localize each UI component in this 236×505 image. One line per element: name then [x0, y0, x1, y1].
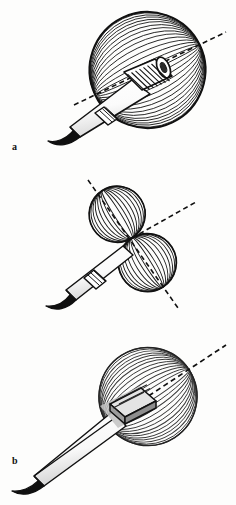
- probe-a: [48, 55, 173, 145]
- panel-b-diagram: [0, 160, 236, 320]
- panel-a-diagram: [0, 0, 236, 170]
- panel-c-diagram: [0, 320, 236, 505]
- panel-c: c: [0, 320, 236, 505]
- figure-root: a: [0, 0, 236, 505]
- panel-b: b: [0, 160, 236, 320]
- panel-a: a: [0, 0, 236, 170]
- beam-axis-primary-b: [88, 180, 178, 308]
- probe-b: [46, 246, 133, 309]
- panel-label-a: a: [12, 142, 17, 152]
